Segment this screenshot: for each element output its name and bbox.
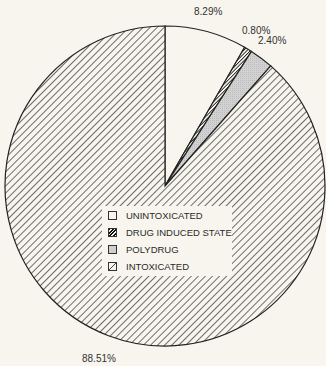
legend-swatch-gray <box>108 245 117 254</box>
legend-item-polydrug: POLYDRUG <box>108 243 179 255</box>
pie-chart <box>0 0 326 366</box>
chart-legend: UNINTOXICATED DRUG INDUCED STATE POLYDRU… <box>102 206 232 276</box>
legend-item-unintoxicated: UNINTOXICATED <box>108 209 203 221</box>
pie-slices <box>5 26 325 346</box>
pie-slice-intoxicated <box>5 26 325 346</box>
legend-swatch-hatch <box>108 262 117 271</box>
label-polydrug: 2.40% <box>258 35 286 46</box>
legend-label: DRUG INDUCED STATE <box>126 227 232 238</box>
legend-swatch-white <box>108 211 117 220</box>
label-unintoxicated: 8.29% <box>194 6 222 17</box>
legend-item-drug-induced: DRUG INDUCED STATE <box>108 226 232 238</box>
legend-item-intoxicated: INTOXICATED <box>108 260 189 272</box>
legend-swatch-dark-hatch <box>108 228 117 237</box>
label-intoxicated: 88.51% <box>82 353 116 364</box>
legend-label: POLYDRUG <box>126 244 179 255</box>
legend-label: UNINTOXICATED <box>126 210 203 221</box>
legend-label: INTOXICATED <box>126 261 189 272</box>
